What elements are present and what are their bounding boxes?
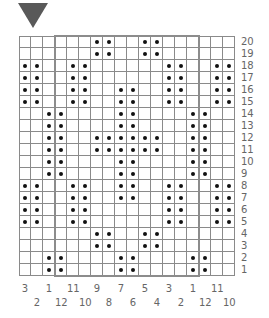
purl-dot-icon: [59, 112, 63, 116]
chart-cell: [175, 48, 187, 60]
stitch-number-label: 11: [211, 283, 223, 294]
purl-dot-icon: [23, 196, 27, 200]
chart-cell: [163, 108, 175, 120]
chart-cell: [79, 72, 91, 84]
row-number-label: 6: [241, 204, 265, 216]
chart-cell: [103, 264, 115, 276]
chart-cell: [19, 48, 31, 60]
chart-cell: [175, 36, 187, 48]
stitch-number-label: 6: [127, 297, 139, 308]
chart-cell: [223, 204, 235, 216]
chart-cell: [79, 144, 91, 156]
purl-dot-icon: [107, 136, 111, 140]
chart-cell: [223, 132, 235, 144]
chart-cell: [199, 108, 211, 120]
chart-cell: [199, 144, 211, 156]
chart-cell: [175, 60, 187, 72]
chart-cell: [91, 264, 103, 276]
chart-cell: [67, 168, 79, 180]
chart-cell: [199, 168, 211, 180]
purl-dot-icon: [23, 76, 27, 80]
purl-dot-icon: [83, 220, 87, 224]
chart-cell: [223, 240, 235, 252]
purl-dot-icon: [131, 184, 135, 188]
purl-dot-icon: [215, 64, 219, 68]
chart-cell: [211, 180, 223, 192]
purl-dot-icon: [71, 208, 75, 212]
purl-dot-icon: [71, 184, 75, 188]
chart-cell: [211, 72, 223, 84]
purl-dot-icon: [191, 268, 195, 272]
chart-cell: [211, 168, 223, 180]
purl-dot-icon: [107, 244, 111, 248]
chart-cell: [163, 240, 175, 252]
chart-cell: [67, 204, 79, 216]
chart-cell: [43, 156, 55, 168]
purl-dot-icon: [167, 76, 171, 80]
purl-dot-icon: [215, 100, 219, 104]
chart-cell: [19, 156, 31, 168]
chart-cell: [67, 252, 79, 264]
chart-cell: [163, 132, 175, 144]
chart-cell: [199, 156, 211, 168]
purl-dot-icon: [131, 88, 135, 92]
chart-cell: [31, 216, 43, 228]
chart-cell: [19, 252, 31, 264]
purl-dot-icon: [35, 100, 39, 104]
chart-cell: [43, 96, 55, 108]
chart-cell: [115, 216, 127, 228]
chart-cell: [211, 36, 223, 48]
purl-dot-icon: [119, 160, 123, 164]
chart-cell: [31, 84, 43, 96]
purl-dot-icon: [119, 268, 123, 272]
purl-dot-icon: [143, 136, 147, 140]
stitch-number-label: 12: [199, 297, 211, 308]
purl-dot-icon: [107, 52, 111, 56]
purl-dot-icon: [23, 184, 27, 188]
chart-cell: [223, 228, 235, 240]
chart-cell: [163, 264, 175, 276]
purl-dot-icon: [143, 40, 147, 44]
chart-cell: [211, 216, 223, 228]
chart-cell: [211, 240, 223, 252]
chart-cell: [91, 156, 103, 168]
chart-cell: [91, 60, 103, 72]
chart-cell: [91, 36, 103, 48]
row-number-label: 11: [241, 144, 265, 156]
chart-cell: [55, 252, 67, 264]
chart-cell: [43, 120, 55, 132]
chart-cell: [79, 204, 91, 216]
chart-cell: [79, 60, 91, 72]
purl-dot-icon: [179, 208, 183, 212]
chart-cell: [223, 96, 235, 108]
chart-cell: [127, 84, 139, 96]
purl-dot-icon: [47, 148, 51, 152]
row-number-label: 8: [241, 180, 265, 192]
chart-cell: [115, 228, 127, 240]
purl-dot-icon: [203, 256, 207, 260]
chart-cell: [67, 240, 79, 252]
stitch-number-label: 11: [67, 283, 79, 294]
chart-cell: [67, 108, 79, 120]
chart-cell: [43, 216, 55, 228]
chart-cell: [31, 144, 43, 156]
chart-cell: [91, 180, 103, 192]
chart-cell: [103, 36, 115, 48]
chart-cell: [31, 60, 43, 72]
purl-dot-icon: [107, 232, 111, 236]
chart-cell: [103, 240, 115, 252]
purl-dot-icon: [155, 52, 159, 56]
chart-cell: [67, 192, 79, 204]
chart-cell: [187, 120, 199, 132]
chart-cell: [175, 144, 187, 156]
chart-cell: [175, 84, 187, 96]
chart-cell: [163, 180, 175, 192]
purl-dot-icon: [203, 148, 207, 152]
purl-dot-icon: [203, 112, 207, 116]
purl-dot-icon: [215, 208, 219, 212]
chart-cell: [199, 132, 211, 144]
row-number-label: 18: [241, 60, 265, 72]
chart-cell: [91, 84, 103, 96]
stitch-number-label: 8: [103, 297, 115, 308]
chart-cell: [127, 48, 139, 60]
